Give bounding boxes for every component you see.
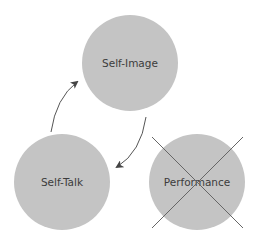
- node-performance: Performance: [149, 134, 245, 230]
- node-self-talk: Self-Talk: [14, 134, 110, 230]
- node-self-image: Self-Image: [82, 15, 178, 111]
- node-label-self-talk: Self-Talk: [41, 176, 84, 188]
- arrow-self-image-to-self-talk: [117, 117, 146, 167]
- diagram-canvas: Self-Image Self-Talk Performance: [0, 0, 257, 244]
- node-label-self-image: Self-Image: [102, 57, 158, 69]
- arrow-self-talk-to-self-image: [51, 82, 77, 132]
